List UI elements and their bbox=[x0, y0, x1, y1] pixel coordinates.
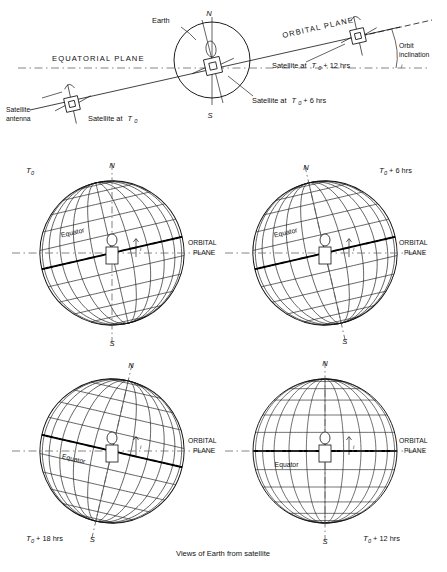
globe-t0-plus-6: NSEquatoriT0 + 6 hrs bbox=[225, 163, 425, 346]
top-orbital-diagram: Earth EQUATORIAL PLANE ORBITAL PLANE N S… bbox=[6, 9, 432, 127]
satellite-dish bbox=[320, 234, 330, 246]
pole-north-label: N bbox=[322, 359, 328, 368]
globe-t0: NSEquatoriT0 bbox=[12, 161, 212, 348]
equatorial-plane-label: EQUATORIAL PLANE bbox=[52, 54, 145, 63]
satellite-antenna-label-line2: antenna bbox=[6, 115, 31, 122]
top-pole-north-label: N bbox=[206, 9, 212, 18]
satellite-t6-label: Satellite at T 0 + 6 hrs bbox=[252, 96, 326, 107]
equator-label: Equator bbox=[60, 226, 86, 239]
globes-layer: NSEquatoriT0NSEquatoriT0 + 6 hrsNSEquato… bbox=[12, 161, 425, 546]
pole-north-label: N bbox=[128, 361, 134, 370]
satellite-body bbox=[319, 445, 331, 462]
satellite-icon bbox=[106, 432, 118, 462]
satellite-icon bbox=[106, 234, 118, 264]
satellite-t12-label: Satellite at T 0 + 12 hrs bbox=[272, 61, 351, 72]
orbital-plane-bottom-line2: PLANE bbox=[193, 447, 216, 454]
orbit-inclination-arc bbox=[392, 30, 397, 68]
globe-time-label: T0 + 18 hrs bbox=[26, 534, 63, 544]
orbital-plane-tr-line2: PLANE bbox=[404, 249, 427, 256]
satellite-icon bbox=[319, 432, 331, 462]
satellite-dish bbox=[320, 432, 330, 444]
orbital-plane-top-line1: ORBITAL bbox=[188, 239, 217, 246]
earth-label: Earth bbox=[152, 16, 170, 25]
orbital-plane-br-line1: ORBITAL bbox=[399, 437, 428, 444]
equator-label: Equator bbox=[273, 226, 299, 239]
satellite-boom bbox=[360, 43, 363, 56]
pole-north-label: N bbox=[303, 163, 309, 172]
figure-root: Earth EQUATORIAL PLANE ORBITAL PLANE N S… bbox=[0, 0, 447, 572]
inclination-symbol: i bbox=[353, 444, 355, 450]
inclination-arrow bbox=[133, 437, 138, 456]
pole-south-label: S bbox=[109, 339, 114, 348]
satellite-mast bbox=[68, 84, 71, 97]
figure-svg: Earth EQUATORIAL PLANE ORBITAL PLANE N S… bbox=[0, 0, 447, 572]
orbital-plane-label-bottom-right: ORBITAL PLANE bbox=[399, 437, 428, 454]
satellite-antenna-label-line1: Satellite bbox=[6, 106, 30, 113]
satellite-body bbox=[319, 247, 331, 264]
orbit-inclination-label-line1: Orbit bbox=[399, 42, 414, 49]
globe-time-label: T0 + 12 hrs bbox=[363, 534, 400, 544]
orbital-plane-label: ORBITAL PLANE bbox=[281, 15, 354, 40]
satellite-core bbox=[354, 32, 361, 39]
globe-t0-plus-12: NSEquatoriT0 + 12 hrs bbox=[225, 359, 425, 546]
orbital-plane-bottom-line1: ORBITAL bbox=[188, 437, 217, 444]
satellite-icon-t6 bbox=[190, 53, 236, 78]
equator-label: Equator bbox=[275, 461, 300, 469]
satellite-body bbox=[106, 445, 118, 462]
orbital-plane-br-line2: PLANE bbox=[404, 447, 427, 454]
earth-leader-line bbox=[181, 27, 196, 40]
pole-south-label: S bbox=[342, 337, 347, 346]
satellite-dish bbox=[107, 432, 117, 444]
satellite-boom bbox=[74, 111, 77, 124]
satellite-panel-right bbox=[220, 58, 234, 64]
inclination-symbol: i bbox=[140, 444, 142, 450]
orbit-inclination-label-line2: inclination bbox=[399, 51, 429, 58]
satellite-dish bbox=[107, 234, 117, 246]
orbital-plane-top-line2: PLANE bbox=[193, 249, 216, 256]
satellite-core bbox=[209, 62, 217, 70]
satellite-antenna-dish bbox=[64, 83, 75, 90]
pole-south-label: S bbox=[90, 535, 95, 544]
top-pole-south-label: S bbox=[207, 111, 212, 120]
orbital-plane-label-bottom: ORBITAL PLANE bbox=[188, 437, 217, 454]
orbital-plane-tr-line1: ORBITAL bbox=[399, 239, 428, 246]
satellite-panel-left bbox=[54, 106, 65, 111]
figure-caption: Views of Earth from satellite bbox=[176, 549, 270, 558]
satellite-core bbox=[68, 100, 75, 107]
satellite-t0-label: Satellite at T 0 bbox=[88, 114, 138, 124]
pole-south-label: S bbox=[322, 537, 327, 546]
pole-north-label: N bbox=[109, 161, 115, 170]
satellite-icon bbox=[319, 234, 331, 264]
inclination-arrow bbox=[346, 437, 351, 456]
orbital-plane-label-top-right: ORBITAL PLANE bbox=[399, 239, 428, 256]
globe-t0-plus-18: NSEquatoriT0 + 18 hrs bbox=[12, 361, 212, 544]
orbital-plane-label-top: ORBITAL PLANE bbox=[188, 239, 217, 256]
satellite-body bbox=[106, 247, 118, 264]
globe-time-label: T0 + 6 hrs bbox=[379, 166, 412, 176]
satellite-antenna-leader bbox=[42, 92, 62, 98]
globe-time-label: T0 bbox=[26, 166, 35, 176]
